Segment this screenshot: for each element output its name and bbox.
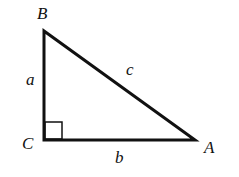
right-angle-marker — [45, 122, 62, 139]
vertex-label-b: B — [37, 4, 48, 23]
side-label-b: b — [115, 148, 124, 167]
vertex-label-c: C — [22, 134, 34, 153]
right-triangle-diagram: B C A a c b — [0, 0, 239, 177]
triangle-abc — [44, 31, 195, 140]
side-label-a: a — [26, 70, 35, 89]
side-label-c: c — [126, 60, 134, 79]
vertex-label-a: A — [203, 138, 215, 157]
